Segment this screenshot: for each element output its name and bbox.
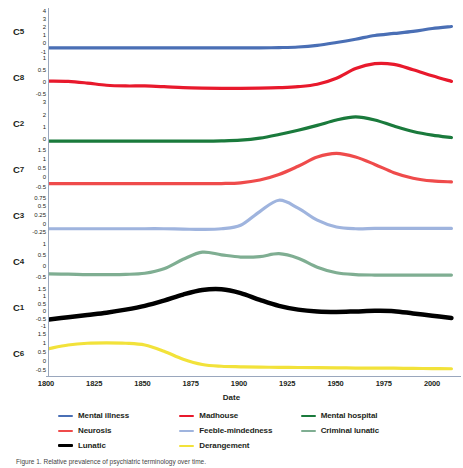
x-tick: 1875 [183, 379, 199, 388]
legend-item-mental-illness[interactable]: Mental illness [58, 408, 175, 423]
y-tick: 0 [43, 308, 46, 314]
legend-item-mental-hospital[interactable]: Mental hospital [301, 408, 418, 423]
panel-c8: C810.50-0.5 [0, 54, 463, 100]
y-tick: 2 [43, 24, 46, 30]
y-tick: 0.25 [34, 212, 46, 218]
y-tick: 1 [43, 124, 46, 130]
y-tick: 1 [43, 241, 46, 247]
chart-figure: C543210-1C810.50-0.5C23210C71.510.50-0.5… [0, 0, 463, 468]
panel-c4: C410.50-0.5 [0, 238, 463, 284]
series-line-madhouse [49, 63, 451, 88]
panel-stack: C543210-1C810.50-0.5C23210C71.510.50-0.5… [0, 8, 463, 376]
x-tick: 1925 [279, 379, 295, 388]
y-tick: 0.5 [38, 349, 46, 355]
legend-label: Mental illness [78, 411, 129, 420]
figure-caption: Figure 1. Relative prevalence of psychia… [16, 458, 456, 466]
panel-c3: C30.750.50.250-0.25 [0, 192, 463, 238]
y-tick: 1.5 [38, 331, 46, 337]
plot-area-c5 [48, 8, 461, 54]
panel-c5: C543210-1 [0, 8, 463, 54]
panel-label-c2: C2 [0, 100, 26, 146]
x-axis-ticks: 180018251850187519001925195019752000 [46, 379, 461, 391]
y-tick: 0 [43, 358, 46, 364]
panel-label-c3: C3 [0, 192, 26, 238]
y-axis-ticks-c1: 1.510.50-0.5-1 [26, 284, 48, 330]
y-axis-ticks-c4: 10.50-0.5 [26, 238, 48, 284]
legend-label: Mental hospital [321, 411, 378, 420]
x-tick: 1825 [86, 379, 102, 388]
y-tick: 3 [43, 99, 46, 105]
legend-swatch-icon [179, 445, 194, 447]
y-tick: -0.5 [36, 274, 46, 280]
legend-item-feeble-mindedness[interactable]: Feeble-mindedness [179, 423, 296, 438]
legend-swatch-icon [179, 430, 194, 432]
y-tick: 2 [43, 112, 46, 118]
y-tick: 0.5 [38, 203, 46, 209]
y-tick: 3 [43, 16, 46, 22]
legend-item-lunatic[interactable]: Lunatic [58, 438, 175, 453]
legend-label: Neurosis [78, 426, 111, 435]
y-axis-ticks-c2: 3210 [26, 100, 48, 146]
legend-item-derangement[interactable]: Derangement [179, 438, 296, 453]
legend-swatch-icon [58, 415, 73, 417]
y-tick: 1 [43, 55, 46, 61]
plot-area-c6 [48, 330, 461, 376]
panel-label-c6: C6 [0, 330, 26, 376]
y-tick: 0 [43, 174, 46, 180]
y-tick: 4 [43, 8, 46, 14]
legend-swatch-icon [301, 415, 316, 417]
y-tick: -0.25 [32, 229, 46, 235]
plot-area-c4 [48, 238, 461, 284]
y-tick: -0.5 [36, 91, 46, 97]
legend-item-neurosis[interactable]: Neurosis [58, 423, 175, 438]
x-tick: 1975 [376, 379, 392, 388]
y-axis-ticks-c6: 1.510.50-0.5 [26, 330, 48, 376]
x-tick: 1850 [134, 379, 150, 388]
legend-swatch-icon [179, 415, 194, 417]
y-tick: 0 [43, 221, 46, 227]
series-line-mental-illness [49, 26, 451, 47]
y-tick: -0.5 [36, 184, 46, 190]
y-axis-ticks-c8: 10.50-0.5 [26, 54, 48, 100]
panel-label-c5: C5 [0, 8, 26, 54]
series-line-mental-hospital [49, 117, 451, 141]
y-tick: -0.5 [36, 316, 46, 322]
x-tick: 2000 [424, 379, 440, 388]
x-tick: 1800 [38, 379, 54, 388]
y-tick: 0 [43, 40, 46, 46]
legend-item-criminal-lunatic[interactable]: Criminal lunatic [301, 423, 418, 438]
y-tick: 0.5 [38, 252, 46, 258]
y-tick: 1.5 [38, 147, 46, 153]
series-line-derangement [49, 343, 451, 369]
y-axis-ticks-c5: 43210-1 [26, 8, 48, 54]
chart-legend: Mental illnessMadhouseMental hospitalNeu… [58, 408, 418, 453]
plot-area-c8 [48, 54, 461, 100]
panel-label-c7: C7 [0, 146, 26, 192]
y-axis-ticks-c7: 1.510.50-0.5 [26, 146, 48, 192]
x-tick: 1900 [231, 379, 247, 388]
legend-item-madhouse[interactable]: Madhouse [179, 408, 296, 423]
x-axis-line [46, 376, 461, 377]
panel-c1: C11.510.50-0.5-1 [0, 284, 463, 330]
y-tick: -0.5 [36, 367, 46, 373]
plot-area-c3 [48, 192, 461, 238]
y-tick: 1.5 [38, 286, 46, 292]
legend-swatch-icon [301, 430, 316, 432]
legend-swatch-icon [58, 444, 73, 447]
y-tick: 0.5 [38, 301, 46, 307]
x-tick: 1950 [327, 379, 343, 388]
panel-label-c1: C1 [0, 284, 26, 330]
legend-swatch-icon [58, 430, 73, 432]
y-tick: -1 [41, 323, 46, 329]
legend-label: Feeble-mindedness [199, 426, 272, 435]
y-axis-ticks-c3: 0.750.50.250-0.25 [26, 192, 48, 238]
y-tick: 1 [43, 32, 46, 38]
legend-label: Lunatic [78, 441, 106, 450]
legend-label: Criminal lunatic [321, 426, 379, 435]
y-tick: 0.5 [38, 67, 46, 73]
panel-c7: C71.510.50-0.5 [0, 146, 463, 192]
legend-label: Derangement [199, 441, 249, 450]
plot-area-c2 [48, 100, 461, 146]
y-tick: 0 [43, 136, 46, 142]
y-tick: 1 [43, 340, 46, 346]
